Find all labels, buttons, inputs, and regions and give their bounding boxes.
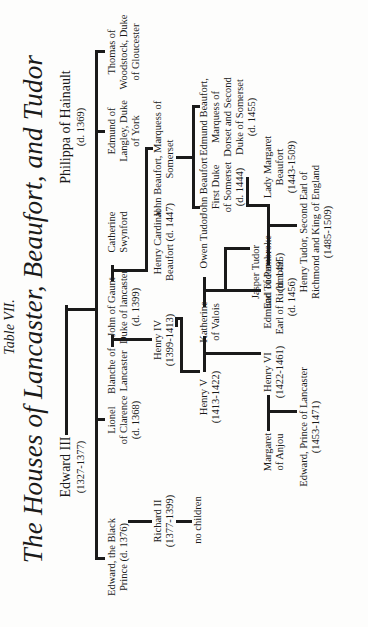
descent-line-john-beaufort-duke (246, 204, 270, 207)
person-john-beaufort-marquess: John Beaufort, Marquess of Somerset (152, 101, 176, 218)
descent-line-edmund-margaret (267, 224, 297, 227)
genealogy-table: Table VII. The Houses of Lancaster, Beau… (0, 0, 368, 627)
person-edward-prince-of-lancaster: Edward, Prince of Lancaster (1453-1471) (298, 367, 322, 487)
person-henry-vi: Henry VI (1422-1461) (262, 346, 286, 399)
descent-line-john-beaufort-duke-b (246, 177, 249, 207)
marriage-line-john-catherine (111, 265, 114, 281)
page-title: The Houses of Lancaster, Beaufort, and T… (18, 55, 49, 563)
person-black-prince: Edward, the Black Prince (d. 1376) (106, 518, 130, 596)
children-bar-edward-iii (95, 50, 98, 560)
children-bar-beaufort (145, 147, 148, 272)
person-edmund-beaufort: Edmund Beaufort, Marquess of Dorset and … (198, 77, 258, 156)
person-henry-tudor: Henry Tudor, Second Earl of Richmond and… (298, 165, 334, 299)
children-bar-tudor (224, 247, 227, 289)
descent-line-henry-iv-c (180, 317, 183, 373)
tick-lionel (95, 418, 105, 421)
marriage-line-edward-philippa (65, 305, 68, 435)
marriage-line-margaret-henry-vi (267, 395, 270, 431)
tick-jasper (224, 247, 250, 250)
descent-line-blanche-john (111, 338, 152, 341)
person-john-of-gaunt: John of Gaunt Duke of lancaster (d. 1399… (106, 270, 142, 344)
person-catherine-swynford: Catherine Swynford (106, 211, 130, 252)
person-thomas-woodstock: Thomas of Woodstock, Duke of Gloucester (106, 15, 142, 90)
descent-line-edward-iii (65, 308, 97, 311)
marriage-line-katherine-owen (203, 277, 206, 307)
children-bar-somerset (192, 105, 195, 209)
person-owen-tudor: Owen Tudor (198, 216, 210, 269)
tick-edmund-langley (95, 130, 105, 133)
person-edward-iii: Edward III (1327-1377) (58, 436, 88, 497)
person-lady-margaret-beaufort: Lady Margaret Beaufort (1443-1509) (262, 136, 298, 199)
descent-line-richard-ii (176, 520, 192, 523)
person-margaret-anjou: Margaret of Anjou (262, 433, 286, 471)
descent-line-john-catherine (111, 269, 147, 272)
person-richard-ii: Richard II (1377-1399) (152, 495, 176, 548)
tick-thomas (95, 50, 105, 53)
descent-line-henry-iv-d (180, 370, 200, 373)
person-edmund-tudor: Edmund Tudor Earl of Richmond (d. 1456) (262, 259, 298, 334)
person-blanche: Blanche of Lancaster (106, 348, 130, 394)
descent-line-henry-v-katherine (203, 352, 261, 355)
person-philippa: Philippa of Hainault (d. 1369) (58, 70, 88, 184)
person-henry-v: Henry V (1413-1422) (198, 371, 222, 424)
person-edmund-langley: Edmund of Langley, Duke of York (106, 100, 142, 162)
person-john-beaufort-duke: John Beaufort First Duke of Somerset (d.… (198, 157, 246, 216)
table-number: Table VII. (2, 299, 18, 354)
tick-black-prince (95, 557, 105, 560)
no-children-note: no children (192, 496, 204, 544)
person-henry-iv: Henry IV (1399-1413) (152, 314, 176, 367)
person-katherine-valois: Katherine of Valois (198, 301, 222, 342)
marriage-line-edmund-margaret (267, 205, 270, 265)
person-lionel: Lionel of Clarence (d. 1368) (106, 396, 142, 445)
descent-line-henry-vi (267, 410, 297, 413)
descent-line-black-prince (128, 520, 152, 523)
